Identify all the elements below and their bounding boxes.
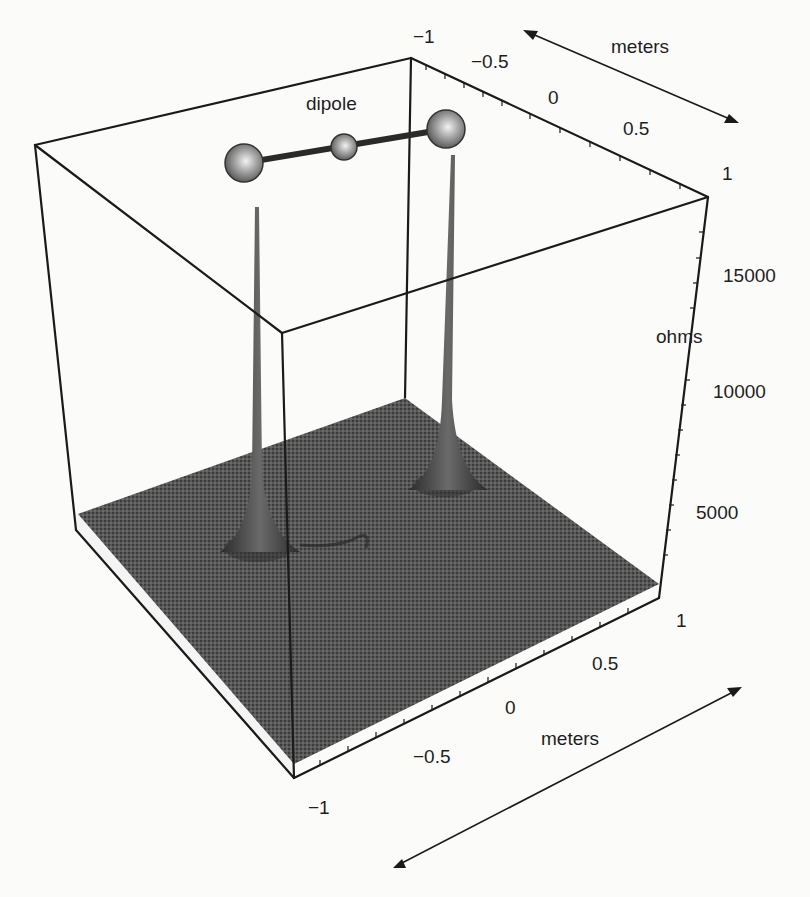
bottom-tick-neg1: −1 bbox=[308, 797, 330, 818]
top-tick-05: 0.5 bbox=[623, 118, 649, 139]
dipole-left-sphere bbox=[225, 144, 263, 182]
dipole-right-sphere bbox=[427, 110, 465, 148]
bottom-tick-1: 1 bbox=[676, 610, 687, 631]
top-tick-1: 1 bbox=[722, 163, 733, 184]
surface-plot-figure: dipole ohms meters −1 −0.5 0 0.5 1 15000… bbox=[0, 0, 810, 897]
bottom-tick-05: 0.5 bbox=[592, 653, 618, 674]
top-tick-neg05: −0.5 bbox=[471, 51, 509, 72]
z-tick-15000: 15000 bbox=[723, 265, 776, 286]
top-tick-0: 0 bbox=[548, 87, 559, 108]
bottom-tick-neg05: −0.5 bbox=[413, 746, 451, 767]
plot-box-back-edges bbox=[405, 58, 411, 398]
bottom-tick-0: 0 bbox=[505, 697, 516, 718]
dipole-label: dipole bbox=[306, 93, 357, 114]
dipole-model bbox=[225, 110, 465, 182]
dipole-center-sphere bbox=[331, 134, 357, 160]
z-axis-title: ohms bbox=[656, 326, 702, 347]
top-tick-neg1: −1 bbox=[413, 26, 435, 47]
bottom-axis-arrow bbox=[393, 687, 742, 868]
z-tick-5000: 5000 bbox=[696, 502, 738, 523]
bottom-axis-title: meters bbox=[541, 728, 599, 749]
top-axis-title: meters bbox=[611, 36, 669, 57]
impedance-surface bbox=[78, 398, 659, 764]
z-tick-10000: 10000 bbox=[713, 381, 766, 402]
